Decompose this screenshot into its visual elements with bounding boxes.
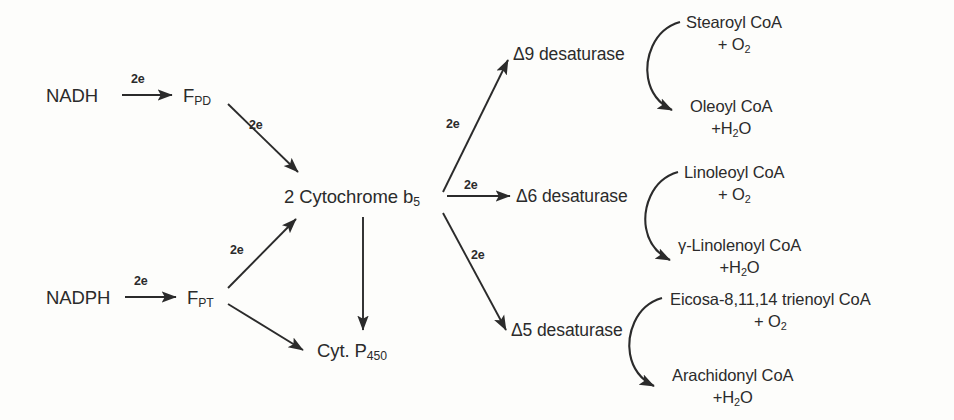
node-cyt-p450-subscript: 450 (367, 349, 387, 363)
oxygen-subscript: 2 (744, 43, 750, 55)
water-prefix: +H (720, 258, 741, 276)
pathway-arrows (0, 0, 954, 420)
node-fpd: FPD (183, 85, 211, 109)
node-fpt: FPT (187, 287, 214, 311)
substrate-delta9: Stearoyl CoA + O2 (686, 11, 782, 57)
enzyme-delta6-desaturase: Δ6 desaturase (516, 186, 628, 207)
enzyme-delta5-desaturase: Δ5 desaturase (511, 320, 623, 341)
product-delta6-coproduct: +H2O (678, 256, 801, 280)
pathway-diagram: NADH 2e FPD NADPH 2e FPT 2e 2e 2 Cytochr… (0, 0, 954, 420)
substrate-delta5-name: Eicosa-8,11,14 trienoyl CoA (670, 288, 871, 310)
curve-delta9-reaction (647, 22, 680, 110)
product-delta9: Oleoyl CoA +H2O (690, 95, 772, 141)
electron-label-fpd-to-hub: 2e (249, 118, 263, 133)
substrate-delta5-cosubstrate: + O2 (670, 310, 871, 334)
node-cyt-p450-text: Cyt. P (317, 340, 367, 361)
water-tail: O (739, 119, 752, 137)
substrate-delta5: Eicosa-8,11,14 trienoyl CoA + O2 (670, 288, 871, 334)
node-nadh: NADH (46, 85, 98, 107)
node-fpd-letter: F (183, 85, 194, 106)
plus-sign: + (718, 35, 728, 53)
substrate-delta6-cosubstrate: + O2 (684, 183, 785, 207)
oxygen-symbol: O (732, 185, 745, 203)
node-cytochrome-b5-subscript: 5 (413, 195, 420, 209)
electron-label-fpt-to-hub: 2e (230, 243, 244, 258)
node-fpt-subscript: PT (198, 296, 213, 310)
oxygen-symbol: O (768, 312, 781, 330)
electron-label-hub-to-delta9: 2e (446, 117, 460, 132)
product-delta6: γ-Linolenoyl CoA +H2O (678, 234, 801, 280)
water-tail: O (747, 258, 760, 276)
water-tail: O (740, 388, 753, 406)
electron-label-hub-to-delta5: 2e (471, 248, 485, 263)
arrow-hub-to-delta5 (443, 213, 506, 330)
node-cytochrome-b5-text: 2 Cytochrome b (284, 186, 413, 207)
oxygen-subscript: 2 (745, 193, 751, 205)
node-cytochrome-b5: 2 Cytochrome b5 (284, 186, 420, 210)
node-nadph: NADPH (46, 287, 110, 309)
oxygen-subscript: 2 (781, 320, 787, 332)
electron-label-nadph-to-fpt: 2e (134, 274, 148, 289)
product-delta6-name: γ-Linolenoyl CoA (678, 234, 801, 256)
arrow-fpd-to-hub (228, 104, 298, 172)
product-delta5: Arachidonyl CoA +H2O (672, 364, 793, 410)
product-delta9-name: Oleoyl CoA (690, 95, 772, 117)
product-delta9-coproduct: +H2O (690, 117, 772, 141)
water-prefix: +H (711, 119, 732, 137)
product-delta5-name: Arachidonyl CoA (672, 364, 793, 386)
arrow-fpt-to-cytp450 (228, 304, 303, 350)
curve-delta5-reaction (629, 298, 662, 386)
plus-sign: + (718, 185, 728, 203)
electron-label-hub-to-delta6: 2e (464, 178, 478, 193)
substrate-delta9-cosubstrate: + O2 (686, 33, 782, 57)
node-cyt-p450: Cyt. P450 (317, 340, 387, 364)
oxygen-symbol: O (732, 35, 745, 53)
substrate-delta9-name: Stearoyl CoA (686, 11, 782, 33)
enzyme-delta9-desaturase: Δ9 desaturase (513, 44, 625, 65)
node-fpt-letter: F (187, 287, 198, 308)
product-delta5-coproduct: +H2O (672, 386, 793, 410)
water-prefix: +H (713, 388, 734, 406)
substrate-delta6: Linoleoyl CoA + O2 (684, 161, 785, 207)
plus-sign: + (754, 312, 764, 330)
node-fpd-subscript: PD (194, 94, 211, 108)
electron-label-nadh-to-fpd: 2e (131, 72, 145, 87)
substrate-delta6-name: Linoleoyl CoA (684, 161, 785, 183)
curve-delta6-reaction (645, 172, 678, 260)
